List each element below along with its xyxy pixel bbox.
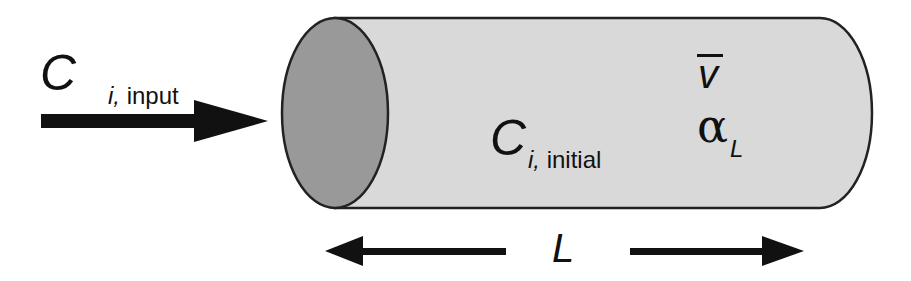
length-left-arrow-icon [325, 236, 506, 266]
input-subscript-text: input [127, 82, 179, 109]
dispersivity-symbol: α [697, 103, 728, 149]
initial-subscript-text: initial [547, 146, 602, 173]
column-body [335, 18, 872, 208]
initial-subscript-var: i, [528, 146, 540, 173]
length-right-arrow-icon [630, 236, 804, 266]
column-diagram [0, 0, 911, 281]
initial-concentration-subscript: i, initial [528, 148, 601, 172]
initial-concentration-symbol: C [490, 113, 526, 163]
input-subscript-var: i, [108, 82, 120, 109]
column-end-cap [282, 18, 388, 208]
dispersivity-subscript: L [730, 137, 743, 161]
input-concentration-subscript: i, input [108, 84, 179, 108]
length-symbol: L [552, 228, 574, 268]
velocity-symbol: v [698, 54, 718, 94]
input-concentration-symbol: C [40, 48, 76, 98]
